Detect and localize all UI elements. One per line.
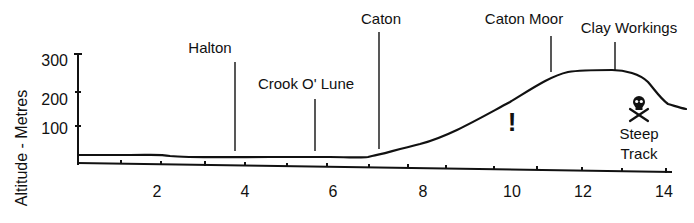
x-tick-12: 12: [574, 183, 592, 200]
x-tick-4: 4: [241, 183, 250, 200]
x-tick-6: 6: [329, 183, 338, 200]
y-axis: [74, 53, 82, 165]
y-tick-300: 300: [41, 52, 68, 69]
x-tick-14: 14: [655, 183, 673, 200]
x-tick-10: 10: [503, 183, 521, 200]
warning-icon: !: [508, 107, 517, 137]
label-halton: Halton: [188, 39, 231, 56]
skull-crossbones-icon: [630, 96, 648, 121]
x-axis: [77, 160, 672, 173]
x-tick-8: 8: [419, 183, 428, 200]
y-axis-label: Altitude - Metres: [13, 90, 30, 206]
altitude-profile-chart: Altitude - Metres 300 200 100 2 4 6 8 10…: [0, 0, 694, 223]
label-crook-o-lune: Crook O' Lune: [258, 75, 354, 92]
y-tick-100: 100: [41, 120, 68, 137]
label-steep: Steep: [619, 125, 658, 142]
label-caton-moor: Caton Moor: [485, 10, 563, 27]
label-track: Track: [621, 145, 658, 162]
label-clay-workings: Clay Workings: [581, 19, 677, 36]
label-caton: Caton: [361, 10, 401, 27]
y-tick-200: 200: [41, 91, 68, 108]
altitude-profile-line: [78, 70, 686, 157]
x-tick-2: 2: [153, 183, 162, 200]
